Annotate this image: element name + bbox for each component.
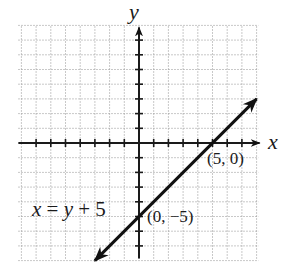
graph-line-x-equals-y-plus-5 xyxy=(95,99,257,261)
equation-label: x = y + 5 xyxy=(31,197,106,221)
x-axis-label: x xyxy=(267,129,278,154)
y-axis-label: y xyxy=(127,0,139,24)
equation-rhs-const: + 5 xyxy=(73,197,106,221)
point-label-x-intercept: (5, 0) xyxy=(207,149,244,168)
equation-equals: = xyxy=(41,197,63,221)
point-label-y-intercept: (0, −5) xyxy=(147,207,193,226)
coordinate-plane: x y (5, 0) (0, −5) x = y + 5 xyxy=(0,0,282,272)
equation-rhs-var: y xyxy=(62,197,74,221)
